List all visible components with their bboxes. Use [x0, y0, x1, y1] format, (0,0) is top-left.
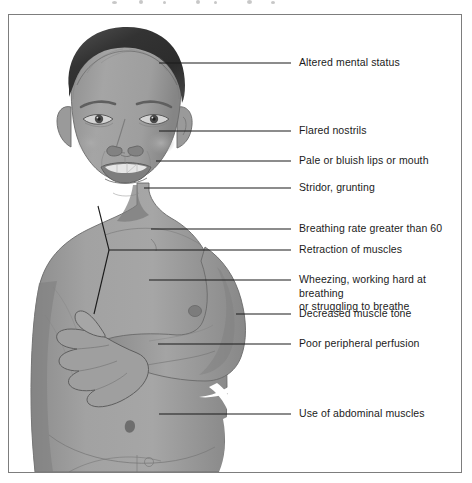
- nostril-right: [128, 146, 143, 156]
- left-bottom-gap: [9, 447, 31, 472]
- callout-label-use-of-abdominal-muscles: Use of abdominal muscles: [299, 407, 425, 421]
- callout-label-pale-bluish-lips: Pale or bluish lips or mouth: [299, 154, 429, 168]
- callout-label-altered-mental-status: Altered mental status: [299, 56, 400, 70]
- torso-group: [31, 183, 227, 472]
- callout-label-decreased-muscle-tone: Decreased muscle tone: [299, 307, 412, 321]
- callout-label-retraction-of-muscles: Retraction of muscles: [299, 243, 402, 257]
- nostril-left: [107, 146, 122, 156]
- cheek-left: [77, 132, 105, 154]
- callout-label-flared-nostrils: Flared nostrils: [299, 124, 367, 138]
- head-group: [57, 27, 192, 196]
- arm-torso-gap: [245, 315, 260, 367]
- callout-label-poor-peripheral-perfusion: Poor peripheral perfusion: [299, 337, 420, 351]
- ear-left: [57, 107, 71, 147]
- illustration-frame: Altered mental status Flared nostrils Pa…: [8, 14, 462, 473]
- nipple: [189, 306, 202, 317]
- cropped-header-fragment: [0, 0, 472, 7]
- callout-label-stridor-grunting: Stridor, grunting: [299, 181, 375, 195]
- cheek-right: [147, 132, 175, 154]
- callout-label-breathing-rate: Breathing rate greater than 60: [299, 222, 442, 236]
